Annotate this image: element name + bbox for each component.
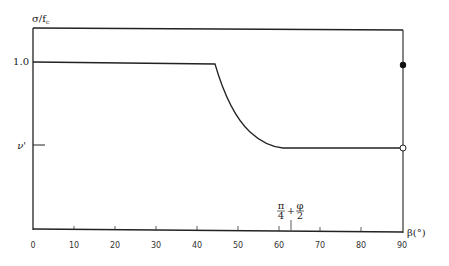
svg-text:90: 90: [397, 241, 407, 250]
svg-text:40: 40: [192, 241, 202, 250]
svg-text:20: 20: [110, 241, 120, 250]
y-tick-1: 1.0: [13, 56, 29, 67]
y-tick-nu: ν': [17, 140, 26, 151]
svg-text:70: 70: [315, 241, 325, 250]
svg-text:+: +: [287, 205, 295, 216]
stress-curve: [33, 62, 403, 148]
x-tick-labels: 0 10 20 30 40 50 60 70 80 90: [30, 241, 407, 250]
svg-text:10: 10: [69, 241, 79, 250]
svg-text:60: 60: [274, 241, 284, 250]
svg-text:50: 50: [233, 241, 243, 250]
svg-text:2: 2: [297, 210, 303, 221]
open-point-marker: [400, 145, 406, 151]
x-axis: [33, 229, 403, 232]
filled-point-marker: [400, 62, 406, 68]
chart-canvas: σ/fc 1.0 ν' β(°) π 4 + φ 2 0 10 20 30 40…: [0, 0, 449, 266]
svg-text:30: 30: [151, 241, 161, 250]
x-axis-label: β(°): [407, 227, 426, 238]
top-border: [33, 28, 403, 30]
y-axis-label: σ/fc: [32, 13, 50, 25]
svg-text:4: 4: [278, 210, 284, 221]
svg-text:0: 0: [30, 241, 35, 250]
critical-angle-annotation: π 4 + φ 2: [277, 200, 304, 221]
svg-text:80: 80: [356, 241, 366, 250]
